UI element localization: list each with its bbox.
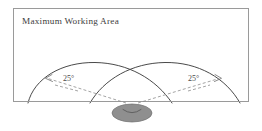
page-title: Maximum Working Area <box>22 16 119 26</box>
angle-label-left: 25° <box>63 74 74 83</box>
working-area-diagram: Maximum Working Area 25° 25° <box>0 0 262 131</box>
figure-container: Maximum Working Area 25° 25° <box>0 0 262 131</box>
angle-label-right: 25° <box>188 74 199 83</box>
